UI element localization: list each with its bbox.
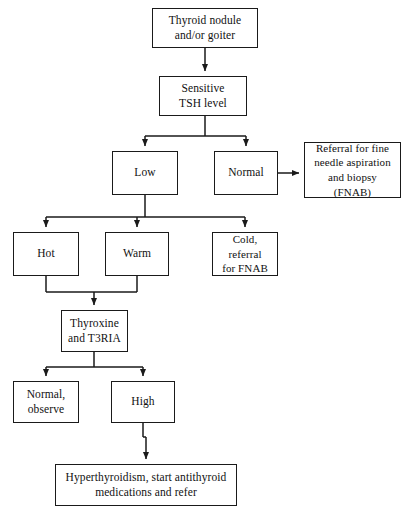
- node-warm: Warm: [105, 232, 169, 276]
- node-hot: Hot: [13, 232, 79, 276]
- node-high: High: [111, 381, 175, 423]
- node-hyperthyroidism: Hyperthyroidism, start antithyroid medic…: [55, 464, 237, 506]
- node-thyroxine-t3ria: Thyroxine and T3RIA: [61, 310, 128, 352]
- node-low: Low: [112, 151, 178, 195]
- node-thyroid-nodule: Thyroid nodule and/or goiter: [152, 8, 258, 48]
- node-cold-referral: Cold, referral for FNAB: [212, 232, 278, 276]
- node-sensitive-tsh: Sensitive TSH level: [159, 76, 247, 116]
- node-referral-fnab: Referral for fine needle aspiration and …: [304, 142, 401, 198]
- node-normal: Normal: [214, 151, 278, 195]
- node-normal-observe: Normal, observe: [13, 381, 79, 423]
- flowchart-canvas: Thyroid nodule and/or goiter Sensitive T…: [0, 0, 410, 515]
